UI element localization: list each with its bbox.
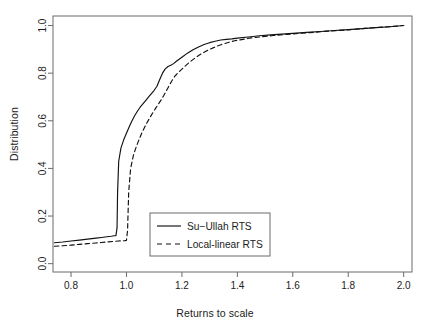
- legend-label-1: Su−Ullah RTS: [187, 221, 252, 232]
- y-tick-label: 0.8: [38, 66, 49, 80]
- y-tick-label: 0.6: [38, 113, 49, 127]
- y-tick-label: 0.4: [38, 161, 49, 175]
- y-tick-label: 0.2: [38, 209, 49, 223]
- legend-box: [150, 213, 270, 256]
- x-tick-label: 1.4: [230, 280, 244, 291]
- plot-canvas: 0.81.01.21.41.61.82.0 0.00.20.40.60.81.0…: [0, 0, 430, 323]
- legend-label-2: Local-linear RTS: [187, 239, 263, 250]
- y-tick-label: 0.0: [38, 256, 49, 270]
- x-axis-label: Returns to scale: [0, 307, 430, 319]
- chart-figure: 0.81.01.21.41.61.82.0 0.00.20.40.60.81.0…: [0, 0, 430, 323]
- x-tick-label: 1.8: [341, 280, 355, 291]
- x-tick-label: 1.0: [120, 280, 134, 291]
- y-tick-label: 1.0: [38, 18, 49, 32]
- x-tick-label: 1.2: [175, 280, 189, 291]
- chart-legend: Su−Ullah RTSLocal-linear RTS: [150, 213, 270, 256]
- y-axis-label: Distribution: [8, 94, 20, 174]
- x-tick-label: 1.6: [286, 280, 300, 291]
- x-tick-label: 0.8: [64, 280, 78, 291]
- x-tick-label: 2.0: [397, 280, 411, 291]
- figure-background: [0, 0, 430, 323]
